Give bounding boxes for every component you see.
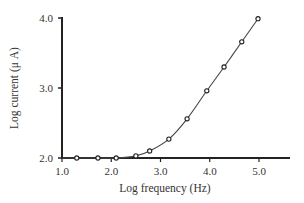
y-tick-label: 4.0 — [39, 12, 53, 24]
x-ticks: 1.02.03.04.05.0 — [55, 158, 266, 177]
data-line — [62, 19, 258, 158]
x-axis-title: Log frequency (Hz) — [119, 182, 210, 195]
data-point-marker — [205, 89, 209, 93]
data-point-marker — [96, 156, 100, 160]
chart: 2.03.04.0 1.02.03.04.05.0 Log frequency … — [0, 0, 304, 203]
data-point-marker — [148, 149, 152, 153]
y-tick-label: 3.0 — [39, 82, 53, 94]
axes — [61, 17, 290, 159]
data-point-marker — [114, 156, 118, 160]
data-point-marker — [185, 117, 189, 121]
y-tick-label: 2.0 — [39, 152, 53, 164]
y-axis-title: Log current (μ A) — [8, 47, 21, 129]
x-tick-label: 1.0 — [55, 165, 69, 177]
data-point-marker — [134, 154, 138, 158]
x-tick-label: 2.0 — [104, 165, 118, 177]
data-point-marker — [75, 156, 79, 160]
x-tick-label: 5.0 — [252, 165, 266, 177]
data-markers — [75, 17, 260, 160]
data-point-marker — [222, 65, 226, 69]
y-ticks: 2.03.04.0 — [39, 12, 62, 164]
data-point-marker — [167, 137, 171, 141]
data-point-marker — [256, 17, 260, 21]
data-point-marker — [240, 40, 244, 44]
x-tick-label: 3.0 — [154, 165, 168, 177]
x-tick-label: 4.0 — [203, 165, 217, 177]
